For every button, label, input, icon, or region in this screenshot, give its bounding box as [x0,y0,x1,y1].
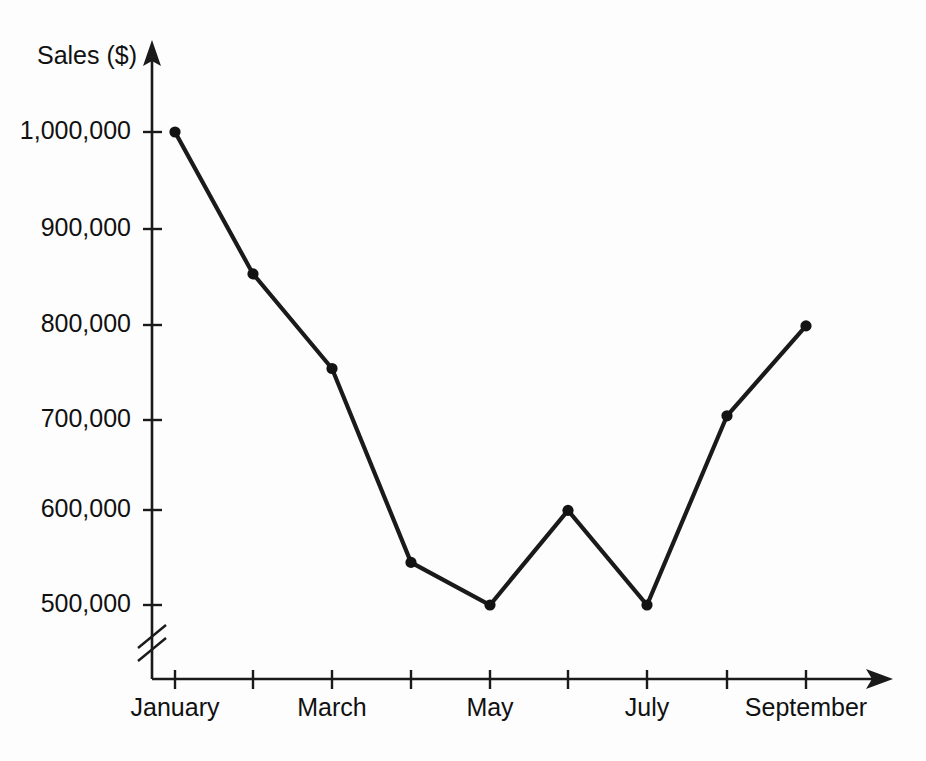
y-tick-label-900000: 900,000 [41,213,131,241]
data-point-march [326,363,337,374]
sales-series-line [175,132,806,605]
x-tick-label-march: March [297,693,366,721]
y-tick-label-700000: 700,000 [41,404,131,432]
y-tick-label-1000000: 1,000,000 [20,116,131,144]
data-point-february [247,268,258,279]
x-tick-label-january: January [131,693,220,721]
y-tick-label-600000: 600,000 [41,494,131,522]
chart-page: 500,000 600,000 700,000 800,000 900,000 … [0,0,926,761]
data-point-may [484,599,495,610]
x-tick-label-september: September [745,693,867,721]
y-axis-title: Sales ($) [37,41,137,69]
line-chart: 500,000 600,000 700,000 800,000 900,000 … [0,0,926,761]
data-point-august [721,410,732,421]
data-point-june [562,505,573,516]
sales-series-markers [169,126,811,610]
data-point-july [641,599,652,610]
data-point-april [405,557,416,568]
x-tick-label-may: May [466,693,514,721]
x-tick-label-july: July [625,693,670,721]
y-tick-label-500000: 500,000 [41,589,131,617]
data-point-september [800,320,811,331]
y-tick-label-800000: 800,000 [41,309,131,337]
data-point-january [169,126,180,137]
